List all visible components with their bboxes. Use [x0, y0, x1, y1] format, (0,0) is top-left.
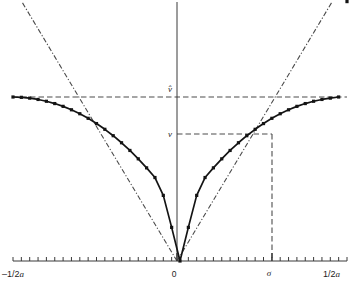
figure-container: –1/2a 0 σ 1/2a v̂ v	[0, 0, 353, 284]
curve-data-marker	[287, 108, 290, 111]
curve-data-marker	[87, 117, 90, 120]
axis-labels: –1/2a 0 σ 1/2a v̂ v	[2, 84, 341, 279]
curve-data-marker	[229, 149, 232, 152]
curve-data-marker	[237, 141, 240, 144]
curve-data-marker	[45, 100, 48, 103]
curve-data-marker	[329, 97, 332, 100]
curve-data-marker	[345, 0, 348, 3]
curve-data-marker	[254, 128, 257, 131]
curve-data-marker	[178, 259, 181, 262]
curve-marker-group	[11, 0, 348, 263]
curve-path	[13, 97, 339, 261]
curve-data-marker	[203, 176, 206, 179]
curve-data-marker	[11, 95, 14, 98]
curve-data-marker	[170, 226, 173, 229]
curve-data-marker	[120, 141, 123, 144]
curve-data-marker	[112, 134, 115, 137]
ytick-label-v: v	[168, 129, 172, 139]
curve-data-marker	[279, 112, 282, 115]
curve-data-marker	[62, 105, 65, 108]
curve-data-marker	[187, 226, 190, 229]
curve-data-marker	[262, 122, 265, 125]
curve-data-marker	[195, 194, 198, 197]
curve-data-marker	[337, 95, 340, 98]
curve-data-marker	[128, 149, 131, 152]
curve-data-marker	[245, 134, 248, 137]
curve-data-marker	[212, 166, 215, 169]
xtick-label-sigma: σ	[267, 268, 272, 278]
curve-data-marker	[70, 108, 73, 111]
asymptote-right-line	[177, 2, 332, 261]
curve-data-marker	[220, 157, 223, 160]
curve-data-marker	[36, 98, 39, 101]
curve-data-marker	[137, 157, 140, 160]
ytick-label-vhat: v̂	[168, 84, 172, 94]
curve-data-marker	[295, 105, 298, 108]
curve-data-marker	[145, 166, 148, 169]
curve-data-marker	[78, 112, 81, 115]
asymptote-left-line	[22, 2, 177, 261]
curve-data-marker	[103, 128, 106, 131]
curve-data-marker	[162, 194, 165, 197]
curve-data-marker	[28, 97, 31, 100]
curve-data-marker	[304, 102, 307, 105]
curve-data-marker	[53, 102, 56, 105]
guide-group	[13, 97, 347, 258]
xtick-label-left: –1/2a	[2, 269, 25, 279]
xtick-label-right: 1/2a	[323, 269, 341, 279]
curve-data-marker	[20, 96, 23, 99]
curve-data-marker	[270, 117, 273, 120]
plot-canvas: –1/2a 0 σ 1/2a v̂ v	[0, 0, 353, 284]
curve-data-marker	[312, 100, 315, 103]
curve-data-marker	[153, 176, 156, 179]
curve-data-marker	[320, 98, 323, 101]
curve-data-marker	[95, 122, 98, 125]
xtick-label-origin: 0	[172, 269, 177, 279]
data-series-curve	[11, 0, 348, 263]
